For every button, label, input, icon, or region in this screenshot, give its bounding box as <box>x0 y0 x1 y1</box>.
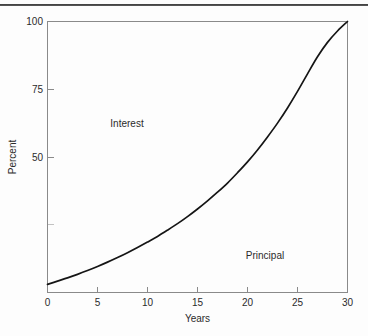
x-tick-label-0: 0 <box>45 297 51 308</box>
x-axis-title: Years <box>185 313 210 324</box>
chart-page: 100 75 50 0 5 10 15 20 25 30 Years <box>0 0 368 336</box>
x-tick-label-5: 5 <box>95 297 101 308</box>
y-axis-title: Percent <box>7 140 18 175</box>
x-tick-label-25: 25 <box>292 297 304 308</box>
y-tick-label-50: 50 <box>32 152 44 163</box>
x-tick-label-20: 20 <box>242 297 254 308</box>
chart-figure: 100 75 50 0 5 10 15 20 25 30 Years <box>0 0 368 336</box>
plot-frame <box>48 22 348 293</box>
x-tick-label-15: 15 <box>192 297 204 308</box>
region-label-principal: Principal <box>246 250 284 261</box>
region-label-interest: Interest <box>110 118 144 129</box>
y-axis-ticks <box>48 22 54 225</box>
x-axis-ticks <box>48 287 348 293</box>
y-tick-label-100: 100 <box>26 16 43 27</box>
chart-plot: 100 75 50 0 5 10 15 20 25 30 Years <box>0 0 368 336</box>
interest-curve <box>48 22 348 285</box>
x-tick-label-30: 30 <box>342 297 354 308</box>
y-tick-label-75: 75 <box>32 84 44 95</box>
x-tick-label-10: 10 <box>142 297 154 308</box>
